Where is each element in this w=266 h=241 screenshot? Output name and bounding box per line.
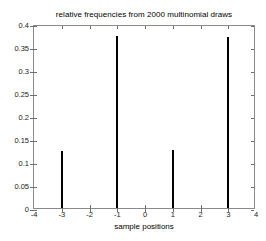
y-axis-tick-label: 0.05 — [14, 183, 29, 191]
x-axis-tick-top — [117, 26, 118, 29]
y-axis-tick-right — [251, 26, 254, 27]
x-axis-tick-label: 3 — [226, 211, 230, 219]
x-axis-tick-top — [145, 26, 146, 29]
x-axis-tick-label: -4 — [31, 211, 38, 219]
x-axis-tick-label: 0 — [143, 211, 147, 219]
y-axis-tick-right — [251, 118, 254, 119]
y-axis-tick-label: 0.35 — [14, 45, 29, 53]
x-axis-tick-label: 1 — [171, 211, 175, 219]
y-axis-tick-label: 0.4 — [19, 22, 29, 30]
x-axis-tick-label: -2 — [86, 211, 93, 219]
x-axis-tick-top — [173, 26, 174, 29]
bar — [61, 151, 63, 208]
y-axis-tick-label: 0.1 — [19, 160, 29, 168]
y-axis-tick-label: 0.15 — [14, 137, 29, 145]
y-axis-tick-inner — [34, 118, 37, 119]
y-axis-tick-right — [251, 187, 254, 188]
y-axis-tick-right — [251, 95, 254, 96]
x-axis-tick-top — [228, 26, 229, 29]
y-axis-tick-inner — [34, 164, 37, 165]
chart-title: relative frequencies from 2000 multinomi… — [33, 10, 255, 20]
bar — [116, 36, 118, 208]
y-axis-tick-inner — [34, 26, 37, 27]
y-axis-tick-inner — [34, 95, 37, 96]
x-axis-tick-inner — [145, 205, 146, 208]
chart-figure: relative frequencies from 2000 multinomi… — [0, 0, 266, 241]
y-axis-tick-right — [251, 49, 254, 50]
x-axis-tick-top — [62, 26, 63, 29]
y-axis-tick-right — [251, 72, 254, 73]
y-axis-tick-label: 0.3 — [19, 68, 29, 76]
y-axis-tick-right — [251, 164, 254, 165]
y-axis-tick-inner — [34, 187, 37, 188]
y-axis-tick-inner — [34, 141, 37, 142]
x-axis-tick-inner — [201, 205, 202, 208]
y-axis-tick-inner — [34, 49, 37, 50]
x-axis-tick-top — [90, 26, 91, 29]
x-axis-tick-top — [201, 26, 202, 29]
plot-inner: 00.050.10.150.20.250.30.350.4-4-3-2-1012… — [34, 26, 254, 208]
x-axis-label: sample positions — [33, 222, 255, 232]
x-axis-tick-label: 2 — [198, 211, 202, 219]
y-axis-tick-inner — [34, 72, 37, 73]
y-axis-tick-label: 0 — [25, 206, 29, 214]
x-axis-tick-inner — [90, 205, 91, 208]
y-axis-tick-label: 0.25 — [14, 91, 29, 99]
x-axis-tick-label: 4 — [254, 211, 258, 219]
y-axis-tick-label: 0.2 — [19, 114, 29, 122]
plot-area: 00.050.10.150.20.250.30.350.4-4-3-2-1012… — [33, 25, 255, 209]
bar — [227, 37, 229, 208]
bar — [172, 150, 174, 208]
y-axis-tick-right — [251, 141, 254, 142]
x-axis-tick-label: -3 — [58, 211, 65, 219]
x-axis-tick-label: -1 — [114, 211, 121, 219]
